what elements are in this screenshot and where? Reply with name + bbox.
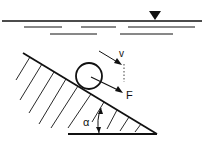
force-arrow: [91, 77, 123, 93]
water-ripple-lines: [24, 27, 195, 34]
water-level-triangle-icon: [149, 11, 161, 20]
angle-label: α: [83, 116, 90, 128]
sphere: [76, 63, 102, 89]
force-label: F: [126, 89, 133, 101]
velocity-label: v: [119, 48, 124, 59]
diagram-canvas: F v α: [0, 0, 204, 143]
arrowhead-icon: [115, 86, 123, 93]
arrowhead-icon: [114, 58, 122, 65]
water-surface: [2, 11, 202, 21]
